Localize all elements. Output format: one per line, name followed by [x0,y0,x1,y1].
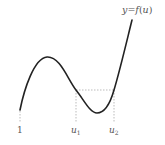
x-label-1: 1 [17,125,23,135]
x-label-u1: u1 [71,125,81,136]
function-diagram: y=f(u) 1 u1 u2 [0,0,165,145]
x-label-u2: u2 [109,125,119,136]
curve-label: y=f(u) [121,4,152,15]
